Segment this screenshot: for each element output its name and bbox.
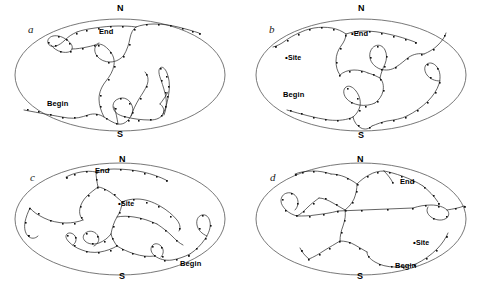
panel-a: a N S Begin End: [0, 0, 241, 146]
south-pole-label: S: [358, 131, 364, 140]
south-pole-label: S: [119, 272, 125, 281]
begin-label: Begin: [283, 91, 304, 99]
panel-letter: d: [270, 172, 276, 183]
figure-apparent-polar-wander-paths: a N S Begin End: [0, 0, 482, 292]
north-pole-label: N: [358, 4, 365, 13]
panel-letter: c: [30, 172, 35, 183]
begin-label: Begin: [180, 260, 201, 268]
panel-a-map: [0, 0, 241, 146]
panel-letter: b: [269, 24, 275, 35]
north-pole-label: N: [119, 155, 126, 164]
end-label: End: [95, 167, 109, 175]
wander-path: [273, 27, 446, 129]
site-label: •Site: [285, 54, 301, 62]
wander-path: [281, 171, 464, 267]
wander-path: [24, 24, 199, 124]
end-label: •End: [351, 30, 368, 38]
begin-label: Begin: [395, 262, 416, 270]
end-label: End: [400, 178, 414, 186]
end-label: End: [99, 28, 113, 36]
path-tick-markers: [275, 27, 446, 129]
end-label-text: End: [354, 29, 368, 38]
north-pole-label: N: [117, 4, 124, 13]
panel-b: b N S Begin •End •Site: [241, 0, 482, 146]
panel-d: d N S Begin End •Site: [241, 146, 482, 292]
site-label: •Site: [413, 239, 429, 247]
north-pole-label: N: [357, 155, 364, 164]
site-label: •Site: [118, 200, 134, 208]
site-label-text: Site: [416, 239, 429, 246]
panel-c: c N S Begin End •Site: [0, 146, 241, 292]
south-pole-label: S: [357, 272, 363, 281]
site-label-text: Site: [288, 54, 301, 61]
panel-b-map: [241, 0, 482, 146]
site-label-text: Site: [121, 200, 134, 207]
begin-label: Begin: [47, 100, 68, 108]
south-pole-label: S: [117, 130, 123, 139]
panel-letter: a: [28, 24, 34, 35]
